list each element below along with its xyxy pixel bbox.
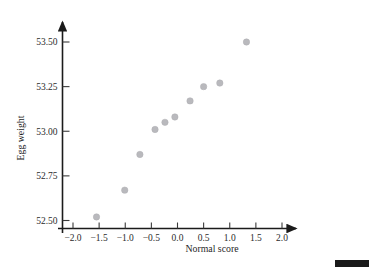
y-tick-label: 53.25	[36, 82, 58, 92]
data-point	[200, 83, 206, 89]
plot-canvas: 52.5052.7553.0053.2553.50 −2.0−1.5−1.0−0…	[0, 0, 373, 275]
y-tick-label: 52.50	[36, 216, 58, 226]
data-point	[93, 214, 99, 220]
x-tick-label: −0.5	[143, 233, 160, 243]
data-point	[152, 126, 158, 132]
x-axis-title: Normal score	[185, 243, 239, 254]
data-point	[243, 39, 249, 45]
data-point	[172, 114, 178, 120]
data-point	[162, 119, 168, 125]
data-point	[122, 187, 128, 193]
x-tick-label: 1.5	[250, 233, 262, 243]
x-tick-label: 1.0	[224, 233, 236, 243]
y-axis-title: Egg weight	[15, 115, 26, 160]
x-tick-label: 0.5	[198, 233, 210, 243]
y-axis: 52.5052.7553.0053.2553.50	[36, 22, 69, 233]
y-tick-label: 52.75	[36, 171, 58, 181]
data-point	[137, 151, 143, 157]
x-tick-label: 2.0	[276, 233, 288, 243]
data-point	[217, 80, 223, 86]
data-point	[187, 98, 193, 104]
scatter-plot-figure: 52.5052.7553.0053.2553.50 −2.0−1.5−1.0−0…	[0, 0, 373, 275]
x-tick-label: 0.0	[172, 233, 184, 243]
y-tick-label: 53.50	[36, 37, 58, 47]
page-edge-marker	[335, 260, 369, 267]
x-axis: −2.0−1.5−1.0−0.50.00.51.01.52.0	[58, 223, 296, 243]
y-tick-label: 53.00	[36, 127, 58, 137]
x-tick-label: −1.5	[91, 233, 108, 243]
x-tick-label: −1.0	[117, 233, 134, 243]
x-tick-label: −2.0	[64, 233, 81, 243]
data-points	[93, 39, 249, 220]
